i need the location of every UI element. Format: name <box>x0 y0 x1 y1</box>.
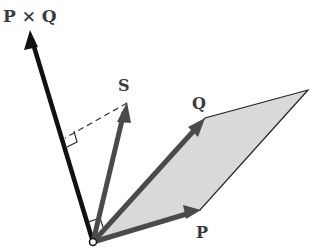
origin-point <box>90 239 97 246</box>
label-p: P <box>196 225 208 241</box>
cross-product-vector <box>32 40 93 242</box>
label-s: S <box>118 78 130 94</box>
vector-diagram <box>0 0 317 250</box>
label-q: Q <box>192 96 206 112</box>
cross-product-arrowhead <box>24 30 38 50</box>
label-cross-product: P × Q <box>3 8 57 25</box>
